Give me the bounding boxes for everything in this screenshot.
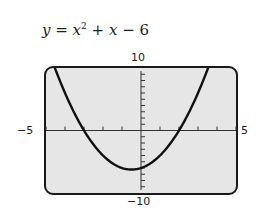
- graph-screen: [0, 0, 257, 208]
